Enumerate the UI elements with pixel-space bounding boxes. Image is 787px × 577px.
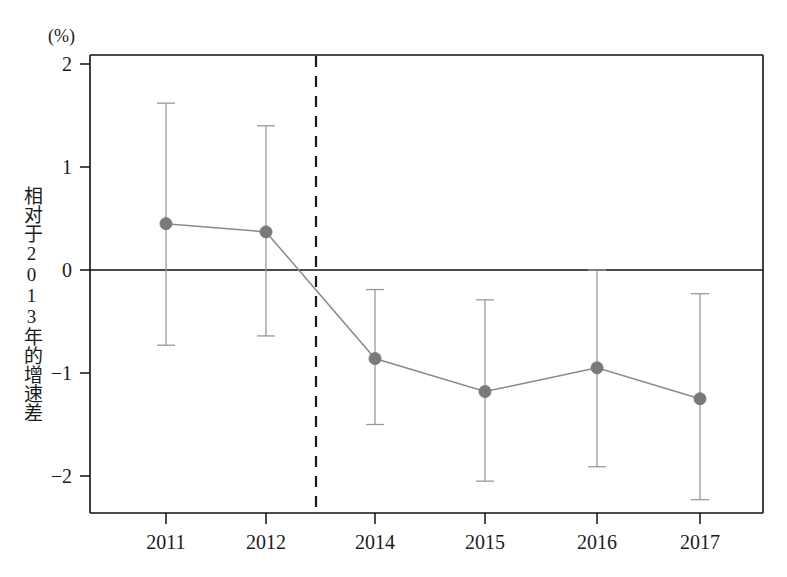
x-axis-tick-label: 2015 <box>465 531 505 553</box>
y-axis-title: 相对于2013年的增速差 <box>12 186 42 422</box>
chart-container: 相对于2013年的增速差 (%) 210−1−2 201120122014201… <box>0 0 787 577</box>
data-point-marker <box>160 218 172 230</box>
chart-plot: (%) 210−1−2 201120122014201520162017 <box>0 0 787 577</box>
data-point-marker <box>369 353 381 365</box>
y-axis-tick-label: 0 <box>62 259 72 281</box>
data-point-marker <box>479 386 491 398</box>
y-axis-tick-label: −2 <box>51 465 72 487</box>
y-axis-tick-label: 1 <box>62 156 72 178</box>
error-bars <box>157 103 709 500</box>
x-axis-tick-label: 2011 <box>146 531 185 553</box>
x-axis: 201120122014201520162017 <box>146 513 720 553</box>
x-axis-tick-label: 2014 <box>355 531 395 553</box>
data-point-marker <box>260 226 272 238</box>
x-axis-tick-label: 2017 <box>680 531 720 553</box>
series-line <box>166 224 700 399</box>
data-point-marker <box>694 393 706 405</box>
y-axis-tick-label: −1 <box>51 362 72 384</box>
y-axis-unit-label: (%) <box>48 26 75 47</box>
y-axis: 210−1−2 <box>51 53 90 487</box>
x-axis-tick-label: 2016 <box>577 531 617 553</box>
x-axis-tick-label: 2012 <box>246 531 286 553</box>
plot-frame <box>90 55 763 513</box>
y-axis-tick-label: 2 <box>62 53 72 75</box>
data-point-marker <box>591 362 603 374</box>
